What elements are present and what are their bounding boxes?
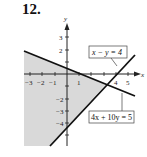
- inequality-graph: −3 −2 −1 1 4 5 3 2 −2 −3 −4 y x x − y = …: [0, 0, 147, 157]
- y-tick-label: −2: [56, 96, 64, 104]
- x-axis-label: x: [140, 71, 145, 79]
- eq1-label: x − y = 4: [91, 48, 122, 57]
- y-tick-label: 2: [59, 47, 63, 55]
- x-tick-label: −3: [25, 79, 33, 87]
- x-tick-label: −2: [37, 79, 45, 87]
- y-tick-label: −4: [56, 120, 64, 128]
- y-axis-arrow-icon: [65, 23, 70, 30]
- x-tick-label: 4: [114, 79, 118, 87]
- y-tick-label: 3: [59, 34, 63, 42]
- eq2-label: 4x + 10y = 5: [91, 113, 132, 122]
- y-tick-label: −3: [56, 108, 64, 116]
- y-axis-label: y: [63, 15, 68, 23]
- x-axis-arrow-icon: [134, 72, 141, 77]
- eq1-leader: [111, 58, 117, 66]
- x-tick-label: 1: [77, 79, 81, 87]
- x-tick-label: −1: [49, 79, 57, 87]
- x-tick-label: 5: [126, 79, 130, 87]
